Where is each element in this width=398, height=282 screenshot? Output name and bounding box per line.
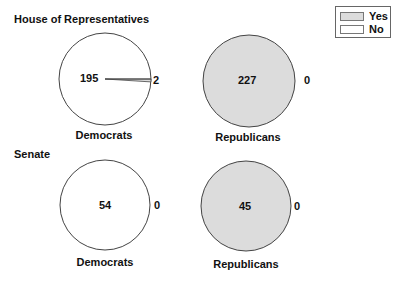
senate-republicans-main-value: 45	[239, 200, 251, 212]
house-democrats-side-value: 2	[153, 74, 159, 86]
legend-label-no: No	[369, 24, 384, 34]
pie-house-democrats	[56, 30, 154, 128]
legend-swatch-no	[340, 25, 364, 34]
senate-section-title: Senate	[14, 148, 50, 160]
senate-democrats-label: Democrats	[55, 256, 155, 268]
legend-swatch-yes	[340, 12, 364, 21]
house-republicans-label: Republicans	[198, 131, 298, 143]
senate-republicans-side-value: 0	[294, 200, 300, 212]
house-republicans-side-value: 0	[304, 74, 310, 86]
senate-democrats-main-value: 54	[99, 199, 111, 211]
senate-republicans-label: Republicans	[196, 258, 296, 270]
senate-democrats-side-value: 0	[154, 199, 160, 211]
legend-item-yes: Yes	[340, 11, 388, 21]
house-democrats-main-value: 195	[80, 72, 98, 84]
house-democrats-label: Democrats	[54, 129, 154, 141]
house-section-title: House of Representatives	[14, 13, 149, 25]
house-republicans-main-value: 227	[238, 74, 256, 86]
legend-label-yes: Yes	[369, 11, 388, 21]
legend-item-no: No	[340, 24, 384, 34]
legend: Yes No	[335, 6, 391, 38]
